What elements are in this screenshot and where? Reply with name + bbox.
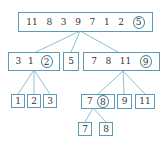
node-rr1: 7: [78, 122, 92, 136]
node-right: 7 8 11 9: [83, 52, 160, 71]
value: 7: [90, 18, 96, 27]
node-root: 11 8 3 9 7 1 2 5: [18, 12, 153, 32]
value: 7: [91, 57, 97, 66]
value: 11: [26, 18, 37, 27]
node-l2: 2: [27, 94, 41, 108]
value: 3: [47, 97, 53, 106]
node-rr2: 8: [99, 122, 113, 136]
value: 1: [28, 57, 34, 66]
node-r3: 11: [135, 94, 155, 109]
edge-root-right: [80, 31, 118, 52]
pivot-circle: 5: [133, 16, 145, 29]
value: 8: [106, 57, 112, 66]
value: 11: [120, 57, 131, 66]
value: 11: [139, 97, 150, 106]
node-r2: 9: [117, 94, 132, 109]
value: 3: [61, 18, 67, 27]
pivot-circle: 8: [97, 95, 109, 108]
value: 9: [75, 18, 81, 27]
value: 1: [15, 97, 21, 106]
value: 2: [118, 18, 124, 27]
edge-r1-rr1: [85, 108, 93, 122]
edge-left-l3: [34, 70, 50, 94]
node-r1: 7 8: [81, 94, 115, 109]
edge-r1-rr2: [93, 108, 106, 122]
value: 5: [68, 57, 74, 66]
edge-root-left: [36, 31, 80, 52]
node-mid: 5: [63, 52, 79, 71]
node-l1: 1: [11, 94, 25, 108]
value: 8: [46, 18, 52, 27]
value: 9: [122, 97, 128, 106]
edge-right-r1: [98, 71, 123, 94]
pivot-circle: 2: [41, 55, 53, 68]
value: 3: [15, 57, 21, 66]
pivot-circle: 9: [140, 55, 152, 68]
value: 7: [87, 97, 93, 106]
edge-right-r3: [123, 71, 145, 94]
node-left: 3 1 2: [8, 52, 60, 71]
edge-right-r2: [123, 71, 124, 94]
value: 1: [104, 18, 110, 27]
edge-left-l1: [18, 70, 34, 94]
node-l3: 3: [43, 94, 57, 108]
value: 7: [82, 125, 88, 134]
value: 2: [31, 97, 37, 106]
value: 8: [103, 125, 109, 134]
